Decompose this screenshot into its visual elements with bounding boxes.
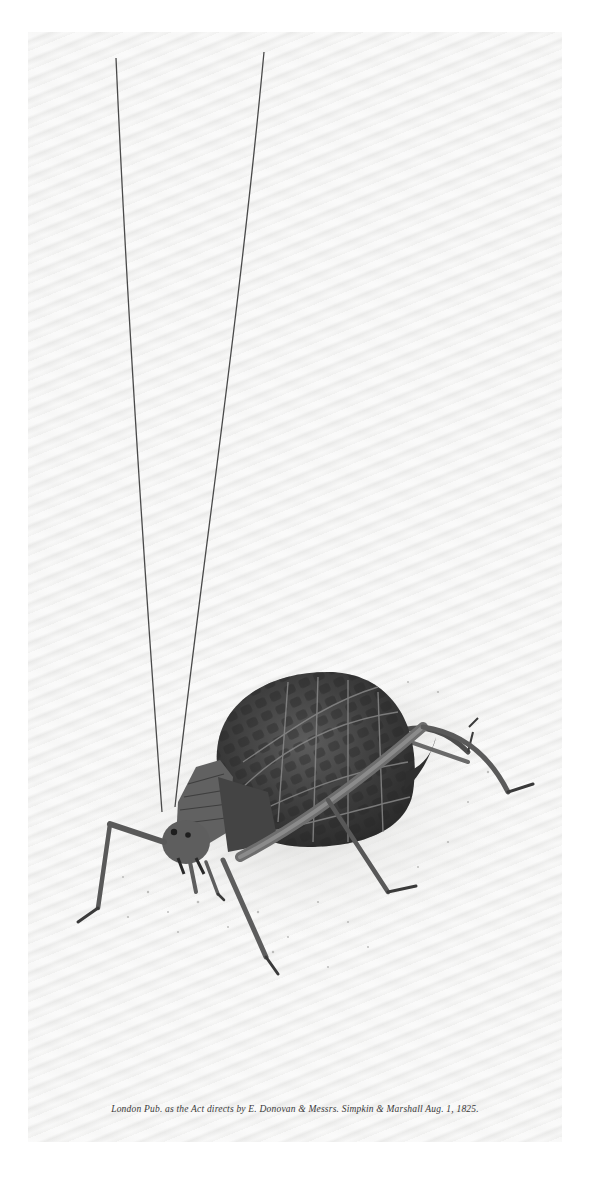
insect-illustration bbox=[28, 32, 562, 1142]
publisher-caption: London Pub. as the Act directs by E. Don… bbox=[28, 1104, 562, 1114]
engraved-plate: London Pub. as the Act directs by E. Don… bbox=[28, 32, 562, 1142]
antennae bbox=[116, 52, 264, 812]
